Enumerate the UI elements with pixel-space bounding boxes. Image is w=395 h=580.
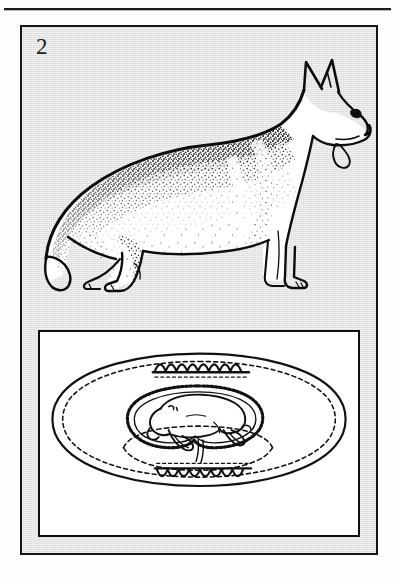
figure-panel: 2 xyxy=(20,25,378,555)
fetus-inset-panel xyxy=(38,330,360,537)
german-shepherd-illustration xyxy=(22,35,378,325)
figure-number-label: 2 xyxy=(36,35,48,58)
dog-saddle-stipple xyxy=(52,125,298,315)
page-canvas: 2 xyxy=(0,0,395,580)
fetus-in-uterus-diagram xyxy=(40,332,358,535)
page-top-rule xyxy=(4,8,391,10)
